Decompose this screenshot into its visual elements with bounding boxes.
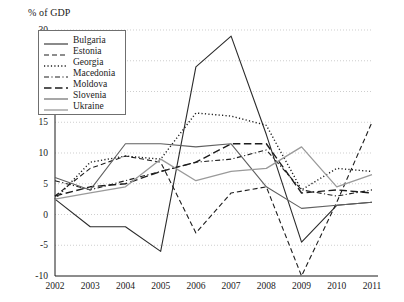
legend-label: Ukraine — [73, 101, 104, 111]
legend-item-macedonia[interactable]: Macedonia — [43, 67, 122, 78]
legend: BulgariaEstoniaGeorgiaMacedoniaMoldovaSl… — [38, 30, 126, 115]
x-tick-label: 2009 — [282, 281, 322, 291]
legend-item-bulgaria[interactable]: Bulgaria — [43, 34, 122, 45]
legend-label: Slovenia — [73, 90, 106, 100]
series-line-moldova — [55, 144, 372, 196]
legend-item-slovenia[interactable]: Slovenia — [43, 89, 122, 100]
x-tick-label: 2006 — [176, 281, 216, 291]
legend-item-ukraine[interactable]: Ukraine — [43, 100, 122, 111]
legend-swatch-icon — [43, 46, 69, 56]
x-tick-label: 2002 — [35, 281, 75, 291]
legend-label: Georgia — [73, 57, 103, 67]
legend-item-georgia[interactable]: Georgia — [43, 56, 122, 67]
x-tick-label: 2004 — [105, 281, 145, 291]
y-tick-label: 15 — [22, 117, 48, 127]
legend-swatch-icon — [43, 35, 69, 45]
line-chart: % of GDP 302520151050-5-10 2002200320042… — [0, 0, 404, 302]
legend-label: Bulgaria — [73, 35, 106, 45]
y-tick-label: -5 — [22, 240, 48, 250]
legend-swatch-icon — [43, 79, 69, 89]
x-tick-label: 2010 — [317, 281, 357, 291]
legend-item-moldova[interactable]: Moldova — [43, 78, 122, 89]
y-tick-label: 0 — [22, 210, 48, 220]
legend-label: Moldova — [73, 79, 107, 89]
legend-swatch-icon — [43, 68, 69, 78]
x-tick-label: 2005 — [141, 281, 181, 291]
x-tick-label: 2007 — [211, 281, 251, 291]
legend-swatch-icon — [43, 90, 69, 100]
x-tick-label: 2008 — [246, 281, 286, 291]
x-tick-label: 2011 — [352, 281, 392, 291]
legend-item-estonia[interactable]: Estonia — [43, 45, 122, 56]
legend-label: Macedonia — [73, 68, 115, 78]
legend-swatch-icon — [43, 57, 69, 67]
x-tick-label: 2003 — [70, 281, 110, 291]
y-tick-label: 5 — [22, 179, 48, 189]
y-tick-label: -10 — [22, 271, 48, 281]
legend-swatch-icon — [43, 101, 69, 111]
y-tick-label: 10 — [22, 148, 48, 158]
legend-label: Estonia — [73, 46, 102, 56]
